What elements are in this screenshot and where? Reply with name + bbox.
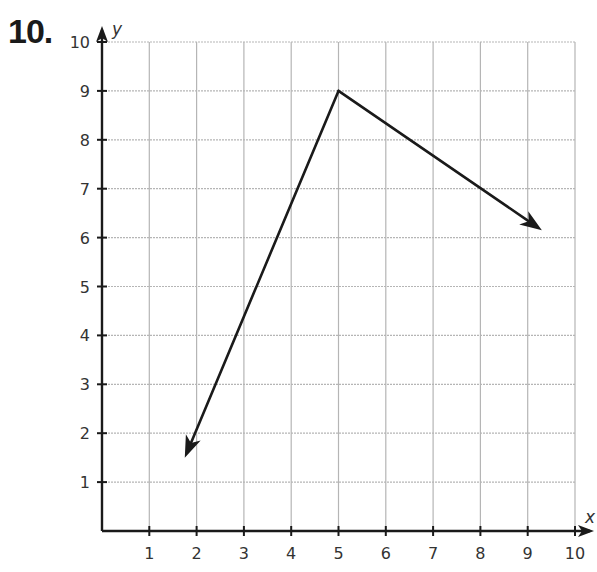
y-axis-label: y	[111, 19, 123, 39]
y-tick-label: 9	[80, 82, 90, 101]
ray-arrowhead-icon	[519, 211, 542, 230]
y-tick-label: 8	[80, 131, 90, 150]
x-tick-label: 1	[144, 544, 154, 563]
x-tick-label: 4	[286, 544, 296, 563]
y-tick-label: 10	[70, 33, 90, 52]
x-axis-label: x	[584, 507, 596, 527]
angle-rays	[185, 91, 542, 458]
x-tick-label: 3	[239, 544, 249, 563]
ray-line	[339, 91, 534, 225]
coordinate-grid-chart: 1234567891012345678910 x y	[0, 0, 597, 572]
x-tick-label: 9	[523, 544, 533, 563]
y-tick-label: 5	[80, 278, 90, 297]
grid-lines	[102, 42, 575, 531]
ray-line	[189, 91, 339, 449]
x-tick-label: 5	[333, 544, 343, 563]
x-tick-label: 7	[428, 544, 438, 563]
x-tick-label: 2	[192, 544, 202, 563]
axis-ticks	[97, 42, 575, 536]
y-tick-label: 6	[80, 229, 90, 248]
x-tick-label: 8	[475, 544, 485, 563]
y-tick-label: 3	[80, 375, 90, 394]
axes	[96, 26, 594, 537]
y-tick-label: 2	[80, 424, 90, 443]
y-tick-label: 4	[80, 326, 90, 345]
x-tick-label: 10	[565, 544, 585, 563]
tick-labels: 1234567891012345678910	[70, 33, 586, 563]
y-tick-label: 1	[80, 473, 90, 492]
y-tick-label: 7	[80, 180, 90, 199]
x-tick-label: 6	[381, 544, 391, 563]
